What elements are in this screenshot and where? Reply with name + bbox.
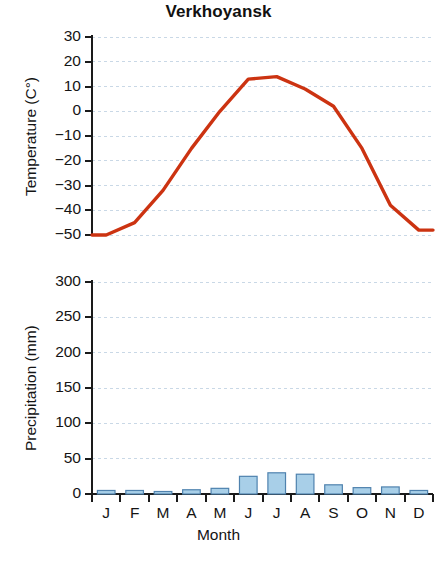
x-tick-label-J-0: J xyxy=(92,504,120,522)
precipitation-bar-O xyxy=(353,488,371,494)
climograph-figure: Verkhoyansk 3020100−10−20−30−40−50Temper… xyxy=(0,0,437,563)
precipitation-bar-J xyxy=(239,476,257,494)
y-tick-label-temperature-30: 30 xyxy=(64,27,81,45)
precipitation-bar-S xyxy=(325,485,343,494)
y-tick-label-temperature--20: −20 xyxy=(55,151,81,169)
x-tick-label-S-8: S xyxy=(320,504,348,522)
y-tick-label-precipitation-150: 150 xyxy=(55,378,81,396)
precipitation-bar-M xyxy=(154,492,172,495)
y-tick-label-temperature--30: −30 xyxy=(55,176,81,194)
y-tick-label-precipitation-0: 0 xyxy=(72,484,81,502)
y-tick-label-temperature-10: 10 xyxy=(64,77,81,95)
x-tick-label-J-5: J xyxy=(234,504,262,522)
y-tick-label-temperature-20: 20 xyxy=(64,52,81,70)
x-tick-label-J-6: J xyxy=(263,504,291,522)
precipitation-bar-J xyxy=(268,473,286,494)
page-title: Verkhoyansk xyxy=(0,2,437,22)
y-axis-title-temperature: Temperature (C°) xyxy=(22,76,40,195)
x-tick-label-F-1: F xyxy=(121,504,149,522)
y-tick-label-temperature--50: −50 xyxy=(55,225,81,243)
x-tick-label-O-9: O xyxy=(348,504,376,522)
y-axis-title-precipitation: Precipitation (mm) xyxy=(22,325,40,451)
x-tick-label-D-11: D xyxy=(405,504,433,522)
y-tick-label-precipitation-100: 100 xyxy=(55,413,81,431)
precipitation-bar-F xyxy=(126,490,144,494)
y-tick-label-precipitation-300: 300 xyxy=(55,272,81,290)
precipitation-bar-A xyxy=(296,474,314,494)
precipitation-bar-D xyxy=(410,490,428,494)
y-tick-label-precipitation-200: 200 xyxy=(55,343,81,361)
x-axis-title: Month xyxy=(0,526,437,544)
y-tick-label-temperature--40: −40 xyxy=(55,200,81,218)
temperature-line xyxy=(92,77,433,235)
x-tick-label-A-3: A xyxy=(177,504,205,522)
precipitation-bar-M xyxy=(211,488,229,494)
y-tick-label-temperature-0: 0 xyxy=(72,101,81,119)
y-tick-label-precipitation-250: 250 xyxy=(55,307,81,325)
precipitation-bar-J xyxy=(97,490,115,494)
x-tick-label-A-7: A xyxy=(291,504,319,522)
x-tick-label-M-4: M xyxy=(206,504,234,522)
precipitation-bar-A xyxy=(183,490,201,494)
x-tick-label-N-10: N xyxy=(376,504,404,522)
y-tick-label-precipitation-50: 50 xyxy=(64,449,81,467)
precipitation-bar-N xyxy=(382,487,400,494)
y-tick-label-temperature--10: −10 xyxy=(55,126,81,144)
x-tick-label-M-2: M xyxy=(149,504,177,522)
